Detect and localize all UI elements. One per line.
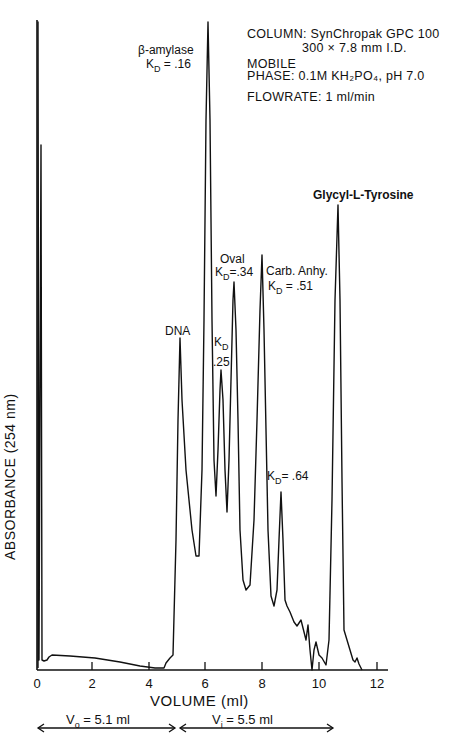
kd-sub: D <box>222 342 229 352</box>
flowrate-condition: FLOWRATE: 1 ml/min <box>247 91 375 104</box>
chromatogram-plot <box>0 0 450 754</box>
v-prefix: V <box>66 712 75 727</box>
column-value: SynChropak GPC 100 <box>311 27 440 41</box>
peak-label-glycyl-tyrosine: Glycyl-L-Tyrosine <box>313 189 413 202</box>
kd-sub: D <box>276 286 283 296</box>
kd-beta-amylase: KD = .16 <box>146 58 191 72</box>
kd-k: K <box>268 279 276 293</box>
kd-value: = .64 <box>282 469 309 483</box>
v-value: = 5.1 ml <box>83 712 130 727</box>
kd-64: KD= .64 <box>267 470 309 484</box>
kd-25-prefix: KD <box>214 336 229 350</box>
x-tick-label: 8 <box>258 676 265 691</box>
x-tick-label: 12 <box>370 676 384 691</box>
included-volume-label: Vi = 5.5 ml <box>212 712 273 727</box>
kd-value: =.34 <box>230 265 254 279</box>
x-ticks <box>92 662 377 670</box>
column-label: COLUMN: <box>247 27 307 41</box>
kd-k: K <box>215 265 223 279</box>
kd-k: K <box>214 335 222 349</box>
peak-label-beta-amylase: β-amylase <box>138 44 194 57</box>
phase-condition: PHASE: 0.1M KH₂PO₄, pH 7.0 <box>247 70 425 83</box>
x-tick-label: 10 <box>312 676 326 691</box>
flowrate-value: 1 ml/min <box>325 90 375 104</box>
peak-label-carb-anhy: Carb. Anhy. <box>266 265 328 278</box>
void-volume-label: Vo = 5.1 ml <box>66 712 130 727</box>
x-tick-label: 0 <box>33 676 40 691</box>
phase-label: PHASE: <box>247 69 295 83</box>
kd-sub: D <box>275 476 282 486</box>
v-sub: o <box>75 720 80 730</box>
kd-value: = .51 <box>286 279 313 293</box>
x-tick-label: 2 <box>88 676 95 691</box>
kd-k: K <box>267 469 275 483</box>
kd-oval: KD=.34 <box>215 266 253 280</box>
kd-value: = .16 <box>164 57 191 71</box>
peak-label-dna: DNA <box>165 325 190 338</box>
kd-carb: KD = .51 <box>268 280 313 294</box>
kd-25-value: .25 <box>213 356 230 369</box>
kd-sub: D <box>223 272 230 282</box>
x-axis-label: VOLUME (ml) <box>150 692 249 709</box>
kd-sub: D <box>154 64 161 74</box>
column-condition: COLUMN: SynChropak GPC 100 <box>247 28 440 41</box>
phase-value: 0.1M KH₂PO₄, pH 7.0 <box>298 69 424 83</box>
column-dims: 300 × 7.8 mm I.D. <box>302 42 407 55</box>
v-prefix: V <box>212 712 221 727</box>
kd-k: K <box>146 57 154 71</box>
chromatogram-trace <box>38 22 362 670</box>
x-tick-label: 6 <box>201 676 208 691</box>
flowrate-label: FLOWRATE: <box>247 90 322 104</box>
x-tick-label: 4 <box>145 676 152 691</box>
v-sub: i <box>221 720 223 730</box>
y-axis-label: ABSORBANCE (254 nm) <box>2 393 18 560</box>
v-value: = 5.5 ml <box>226 712 273 727</box>
